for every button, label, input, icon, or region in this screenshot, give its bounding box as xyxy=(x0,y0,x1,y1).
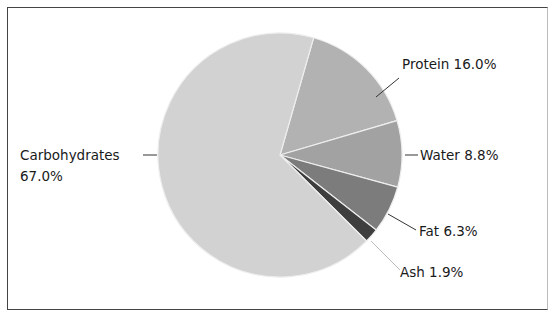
fat-label: Fat 6.3% xyxy=(419,223,478,239)
protein-label: Protein 16.0% xyxy=(402,56,497,72)
pie-chart: Protein 16.0% Water 8.8% Fat 6.3% Ash 1.… xyxy=(0,0,550,314)
ash-label: Ash 1.9% xyxy=(400,264,464,280)
pie-slices xyxy=(158,33,402,277)
carbohydrates-label-name: Carbohydrates xyxy=(20,147,120,163)
ash-leader-line xyxy=(371,241,400,270)
water-label: Water 8.8% xyxy=(420,147,499,163)
carbohydrates-label-value: 67.0% xyxy=(20,168,63,184)
fat-leader-line xyxy=(388,214,416,230)
